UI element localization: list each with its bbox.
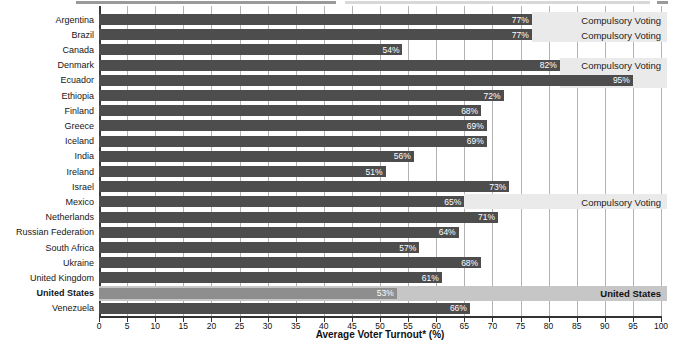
x-tick-label: 35 (291, 321, 300, 331)
turnout-bar: 66% (99, 303, 470, 314)
x-axis-tick (324, 318, 325, 322)
country-label: Ukraine (0, 258, 94, 268)
gridline (521, 6, 522, 316)
country-label: Ireland (0, 167, 94, 177)
country-label: Canada (0, 45, 94, 55)
x-axis-tick (155, 318, 156, 322)
country-label: Argentina (0, 15, 94, 25)
turnout-bar: 68% (99, 257, 481, 268)
value-label: 57% (399, 243, 419, 253)
x-tick-label: 30 (263, 321, 272, 331)
x-tick-label: 10 (150, 321, 159, 331)
x-tick-label: 55 (403, 321, 412, 331)
x-axis-tick (605, 318, 606, 322)
country-label: Venezuela (0, 303, 94, 313)
country-label: Brazil (0, 30, 94, 40)
x-axis-tick (549, 318, 550, 322)
turnout-bar: 56% (99, 151, 414, 162)
gridline (577, 6, 578, 316)
value-label: 71% (478, 212, 498, 222)
country-label: Netherlands (0, 212, 94, 222)
gridline (436, 6, 437, 316)
value-label: 77% (512, 30, 532, 40)
x-tick-label: 20 (207, 321, 216, 331)
value-label: 73% (489, 182, 509, 192)
country-label: Finland (0, 106, 94, 116)
country-label: United Kingdom (0, 273, 94, 283)
x-tick-label: 90 (600, 321, 609, 331)
turnout-bar: 95% (99, 75, 633, 86)
value-label: 53% (377, 288, 397, 298)
turnout-bar: 77% (99, 29, 532, 40)
x-tick-label: 70 (488, 321, 497, 331)
x-tick-label: 50 (375, 321, 384, 331)
turnout-bar: 71% (99, 212, 498, 223)
cropped-title-artifact (657, 1, 668, 4)
country-label: South Africa (0, 243, 94, 253)
country-label: Russian Federation (0, 227, 94, 237)
value-label: 95% (613, 75, 633, 85)
country-label: Israel (0, 182, 94, 192)
value-label: 56% (394, 151, 414, 161)
x-tick-label: 5 (125, 321, 130, 331)
x-axis-tick (436, 318, 437, 322)
x-axis-tick (240, 318, 241, 322)
x-axis-tick (521, 318, 522, 322)
turnout-bar: 54% (99, 44, 402, 55)
x-axis-tick (99, 318, 100, 322)
x-tick-label: 80 (544, 321, 553, 331)
x-tick-label: 60 (431, 321, 440, 331)
x-axis-tick (633, 318, 634, 322)
compulsory-voting-annotation: Compulsory Voting (581, 60, 661, 71)
compulsory-voting-annotation: Compulsory Voting (581, 29, 661, 40)
gridline (549, 6, 550, 316)
country-label: Greece (0, 121, 94, 131)
x-axis-tick (661, 318, 662, 322)
country-label: Iceland (0, 136, 94, 146)
value-label: 64% (439, 227, 459, 237)
value-label: 51% (366, 167, 386, 177)
x-tick-label: 65 (460, 321, 469, 331)
value-label: 61% (422, 273, 442, 283)
x-axis-tick (380, 318, 381, 322)
turnout-bar: 73% (99, 181, 509, 192)
gridline (633, 6, 634, 316)
x-axis-tick (268, 318, 269, 322)
united-states-annotation: United States (600, 288, 661, 299)
voter-turnout-bar-chart: 77%77%54%82%95%72%68%69%69%56%51%73%65%7… (0, 0, 673, 353)
x-tick-label: 15 (179, 321, 188, 331)
turnout-bar: 64% (99, 227, 459, 238)
turnout-bar: 69% (99, 120, 487, 131)
value-label: 68% (461, 106, 481, 116)
x-axis-tick (464, 318, 465, 322)
x-tick-label: 45 (347, 321, 356, 331)
country-label: Mexico (0, 197, 94, 207)
value-label: 72% (484, 91, 504, 101)
country-label: United States (0, 288, 94, 298)
x-tick-label: 75 (516, 321, 525, 331)
cropped-title-artifact (76, 1, 336, 4)
value-label: 69% (467, 121, 487, 131)
turnout-bar: 68% (99, 105, 481, 116)
x-axis-tick (211, 318, 212, 322)
x-axis-tick (183, 318, 184, 322)
turnout-bar: 82% (99, 60, 560, 71)
compulsory-voting-annotation: Compulsory Voting (581, 196, 661, 207)
value-label: 68% (461, 258, 481, 268)
gridline (661, 6, 662, 316)
value-label: 69% (467, 136, 487, 146)
value-label: 66% (450, 303, 470, 313)
x-axis-tick (577, 318, 578, 322)
x-tick-label: 85 (572, 321, 581, 331)
x-axis-tick (408, 318, 409, 322)
gridline (492, 6, 493, 316)
turnout-bar: 72% (99, 90, 504, 101)
turnout-bar: 57% (99, 242, 419, 253)
turnout-bar: 51% (99, 166, 386, 177)
x-tick-label: 0 (97, 321, 102, 331)
country-label: Denmark (0, 60, 94, 70)
x-axis-tick (296, 318, 297, 322)
value-label: 77% (512, 15, 532, 25)
turnout-bar: 61% (99, 272, 442, 283)
country-label: Ethiopia (0, 91, 94, 101)
